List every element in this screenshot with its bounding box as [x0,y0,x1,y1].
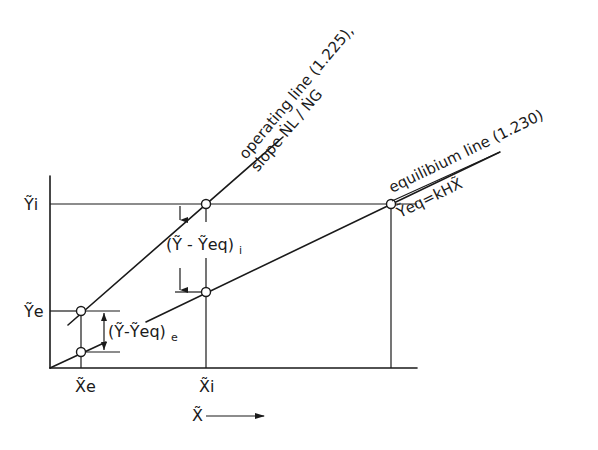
equilibrium-line-annotation: equilibium line (1.230) [386,106,547,197]
x-tick-xe: X̃e [75,377,96,396]
absorption-diagram: Ỹi Ỹe X̃e X̃i X̃ (Ỹ - Ỹeq) i (Ỹ-Ỹeq) e o… [0,0,598,450]
point-equilibrium-e [77,348,86,357]
outlet-difference-text: (Ỹ-Ỹeq) [108,322,166,341]
axis-labels: Ỹi Ỹe X̃e X̃i X̃ [23,195,264,425]
inlet-difference-text: (Ỹ - Ỹeq) [166,235,234,254]
difference-labels: (Ỹ - Ỹeq) i (Ỹ-Ỹeq) e [108,235,242,344]
axes [50,176,417,368]
y-tick-yi: Ỹi [23,195,38,214]
point-equilibrium-i [202,288,211,297]
point-operating-e [77,307,86,316]
operating-line-label: operating line (1.225), [235,22,357,163]
operating-line-annotation: operating line (1.225), slope ṄL / ṄG [234,22,370,175]
outlet-difference-label: (Ỹ-Ỹeq) e [108,322,178,344]
equilibrium-line-label: equilibium line (1.230) [386,106,547,197]
outlet-difference-sub: e [171,331,178,344]
point-operating-i [202,200,211,209]
y-tick-ye: Ỹe [23,302,44,321]
inlet-difference-sub: i [239,244,242,257]
outlet-arrow-head-top [101,313,107,321]
x-tick-xi: X̃i [199,377,214,396]
inlet-difference-label: (Ỹ - Ỹeq) i [166,235,242,257]
outlet-arrow-head-bottom [101,342,107,350]
x-axis-label: X̃ [192,406,203,425]
